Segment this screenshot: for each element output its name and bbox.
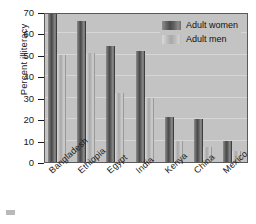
y-axis-tick (38, 163, 44, 164)
bar (165, 117, 174, 162)
legend-item: Adult men (162, 32, 238, 46)
y-axis-tick-label: 0 (12, 158, 34, 168)
legend-item: Adult women (162, 18, 238, 32)
legend-swatch-women (162, 21, 181, 30)
legend-swatch-men (162, 35, 181, 44)
bar (57, 55, 66, 162)
y-axis-tick-label: 10 (12, 137, 34, 147)
y-axis-tick-label: 40 (12, 72, 34, 82)
bar-group (48, 14, 65, 162)
bar (106, 46, 115, 162)
legend-label: Adult men (186, 35, 227, 44)
y-axis-title: Percent illiteracy (18, 0, 29, 125)
y-axis-tick-label: 70 (12, 8, 34, 18)
caption-marker (6, 210, 15, 215)
bar-group (106, 14, 123, 162)
bar-group (136, 14, 153, 162)
y-axis-tick-label: 60 (12, 29, 34, 39)
legend-label: Adult women (186, 21, 238, 30)
bar (145, 98, 154, 162)
y-axis-tick-label: 30 (12, 94, 34, 104)
bar (136, 51, 145, 162)
chart-legend: Adult womenAdult men (160, 16, 241, 48)
y-axis-tick-label: 20 (12, 115, 34, 125)
chart-figure: Percent illiteracy 010203040506070 Bangl… (0, 0, 256, 224)
bar (194, 119, 203, 162)
bar (86, 53, 95, 162)
bar (48, 14, 57, 162)
y-axis-tick-label: 50 (12, 51, 34, 61)
